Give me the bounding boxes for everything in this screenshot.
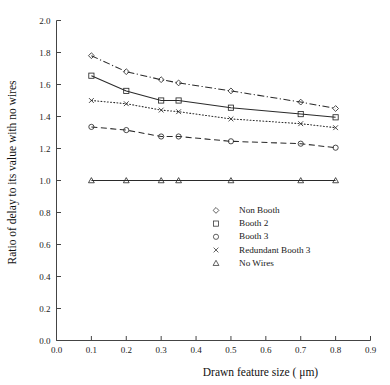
y-tick-label: 0.0 bbox=[39, 336, 51, 346]
circle-icon bbox=[213, 234, 218, 239]
legend-label: Booth 2 bbox=[239, 218, 269, 228]
y-tick-label: 0.8 bbox=[39, 208, 51, 218]
series-1 bbox=[89, 73, 338, 120]
x-tick-label: 0.0 bbox=[51, 345, 63, 355]
x-tick-label: 0.8 bbox=[330, 345, 342, 355]
series-line bbox=[91, 76, 335, 118]
x-tick-label: 0.7 bbox=[295, 345, 307, 355]
axis-titles: Drawn feature size ( μm)Ratio of delay t… bbox=[6, 80, 318, 379]
x-tick-label: 0.1 bbox=[86, 345, 97, 355]
square-marker bbox=[89, 73, 94, 78]
legend-label: Booth 3 bbox=[239, 231, 269, 241]
y-tick-label: 0.2 bbox=[39, 304, 50, 314]
x-tick-label: 0.3 bbox=[156, 345, 168, 355]
series-container bbox=[88, 53, 338, 183]
axes: 0.00.20.40.60.81.01.21.41.61.82.00.00.10… bbox=[39, 16, 376, 355]
diamond-marker bbox=[333, 106, 339, 112]
legend-item: Booth 3 bbox=[213, 231, 268, 241]
y-tick-label: 1.0 bbox=[39, 176, 51, 186]
x-axis-title: Drawn feature size ( μm) bbox=[203, 366, 319, 379]
legend-item: No Wires bbox=[213, 258, 274, 268]
cross-marker bbox=[89, 98, 94, 103]
series-2 bbox=[89, 124, 338, 150]
x-tick-label: 0.4 bbox=[190, 345, 202, 355]
cross-icon bbox=[214, 248, 219, 253]
legend-item: Redundant Booth 3 bbox=[214, 245, 311, 255]
y-tick-label: 0.6 bbox=[39, 240, 51, 250]
legend-label: Redundant Booth 3 bbox=[239, 245, 311, 255]
x-tick-label: 0.6 bbox=[260, 345, 272, 355]
y-tick-label: 1.4 bbox=[39, 112, 51, 122]
legend-label: Non Booth bbox=[239, 205, 280, 215]
y-tick-label: 0.4 bbox=[39, 272, 51, 282]
circle-marker bbox=[333, 145, 338, 150]
line-chart: 0.00.20.40.60.81.01.21.41.61.82.00.00.10… bbox=[0, 0, 390, 385]
diamond-icon bbox=[213, 208, 219, 214]
legend-item: Non Booth bbox=[213, 205, 280, 215]
square-icon bbox=[213, 221, 218, 226]
y-axis-title: Ratio of delay to its value with no wire… bbox=[6, 80, 19, 264]
y-tick-label: 1.2 bbox=[39, 144, 50, 154]
diamond-marker bbox=[88, 53, 94, 59]
series-4 bbox=[88, 178, 338, 183]
cross-marker bbox=[229, 117, 234, 122]
chart-figure: 0.00.20.40.60.81.01.21.41.61.82.00.00.10… bbox=[0, 0, 390, 385]
cross-marker bbox=[159, 108, 164, 113]
x-tick-label: 0.5 bbox=[225, 345, 237, 355]
series-0 bbox=[88, 53, 338, 112]
chart-legend: Non BoothBooth 2Booth 3Redundant Booth 3… bbox=[213, 205, 311, 268]
legend-item: Booth 2 bbox=[213, 218, 268, 228]
triangle-icon bbox=[213, 260, 219, 265]
y-tick-label: 1.6 bbox=[39, 80, 51, 90]
x-tick-label: 0.2 bbox=[121, 345, 132, 355]
series-line bbox=[91, 127, 335, 148]
x-tick-label: 0.9 bbox=[365, 345, 377, 355]
y-tick-label: 1.8 bbox=[39, 48, 51, 58]
y-tick-label: 2.0 bbox=[39, 16, 51, 26]
legend-label: No Wires bbox=[239, 258, 274, 268]
